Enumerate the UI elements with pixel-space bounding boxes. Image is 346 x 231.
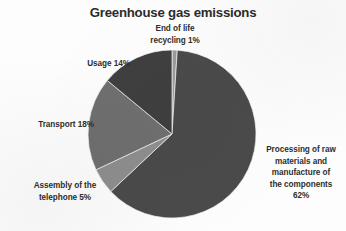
slice-label-assembly-of-telephone: Assembly of the telephone 5% (14, 180, 116, 203)
slice-label-line: manufacture of (258, 167, 344, 179)
slice-label-transport: Transport 18% (2, 119, 94, 131)
slice-label-line: recycling 1% (120, 35, 230, 47)
slice-label-line: Usage 14% (40, 58, 130, 70)
slice-label-line: Transport 18% (2, 119, 94, 131)
slice-label-line: the components (258, 179, 344, 191)
slice-label-line: Processing of raw (258, 144, 344, 156)
slice-label-line: materials and (258, 156, 344, 168)
slice-label-line: Assembly of the (14, 180, 116, 192)
pie-chart-figure: Greenhouse gas emissions End of life rec… (0, 0, 346, 231)
chart-title: Greenhouse gas emissions (0, 5, 346, 20)
slice-label-line: End of life (120, 23, 230, 35)
slice-label-line: telephone 5% (14, 192, 116, 204)
slice-label-usage: Usage 14% (40, 58, 130, 70)
slice-label-end-of-life-recycling: End of life recycling 1% (120, 23, 230, 46)
slice-label-line: 62% (258, 190, 344, 202)
slice-label-processing-raw-materials: Processing of raw materials and manufact… (258, 144, 344, 202)
